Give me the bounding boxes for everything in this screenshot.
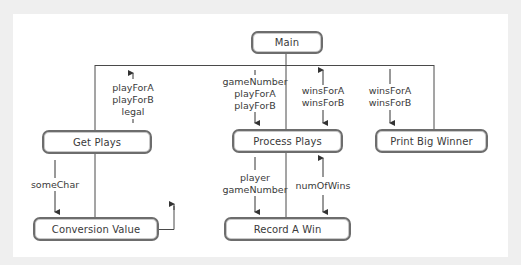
module-process-plays: Process Plays <box>232 129 343 153</box>
flow-label: gameNumber <box>220 76 290 88</box>
flow-process-plays-in: gameNumber playForA playForB <box>220 76 290 112</box>
module-get-plays-label: Get Plays <box>73 137 121 148</box>
module-process-plays-label: Process Plays <box>253 136 321 147</box>
module-main-label: Main <box>275 37 299 48</box>
module-conversion-value-label: Conversion Value <box>52 224 140 235</box>
flow-process-plays-inout: winsForA winsForB <box>293 85 353 109</box>
flow-label: winsForA <box>360 85 420 97</box>
module-print-big-winner: Print Big Winner <box>375 129 488 153</box>
flow-label: legal <box>103 106 163 118</box>
flow-label: playForA <box>220 88 290 100</box>
flow-record-a-win-in: player gameNumber <box>220 172 290 196</box>
flow-label: playForA <box>103 82 163 94</box>
flow-label: someChar <box>30 179 80 191</box>
module-main: Main <box>251 31 323 54</box>
flow-label: playForB <box>220 100 290 112</box>
flow-label: player <box>220 172 290 184</box>
module-record-a-win-label: Record A Win <box>254 224 322 235</box>
flow-label: winsForA <box>293 85 353 97</box>
flow-get-plays-out: playForA playForB legal <box>103 82 163 118</box>
flow-record-a-win-inout: numOfWins <box>293 180 353 192</box>
flow-conversion-value-in: someChar <box>30 179 80 191</box>
module-record-a-win: Record A Win <box>224 217 351 241</box>
module-conversion-value: Conversion Value <box>33 217 159 241</box>
flow-label: gameNumber <box>220 184 290 196</box>
flow-print-big-winner-in: winsForA winsForB <box>360 85 420 109</box>
module-get-plays: Get Plays <box>42 130 152 154</box>
flow-label: playForB <box>103 94 163 106</box>
flow-label: numOfWins <box>293 180 353 192</box>
module-print-big-winner-label: Print Big Winner <box>390 136 472 147</box>
flow-label: winsForB <box>360 97 420 109</box>
flow-label: winsForB <box>293 97 353 109</box>
